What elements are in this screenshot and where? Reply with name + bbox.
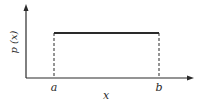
uniform-distribution-diagram: a b x p (x) [0,0,198,101]
y-axis-label: p (x) [8,30,19,53]
y-axis-arrowhead [24,4,29,11]
x-axis-arrowhead [187,76,194,81]
upper-bound-label: b [155,81,162,94]
lower-bound-label: a [51,81,58,94]
x-axis-label: x [103,89,110,101]
